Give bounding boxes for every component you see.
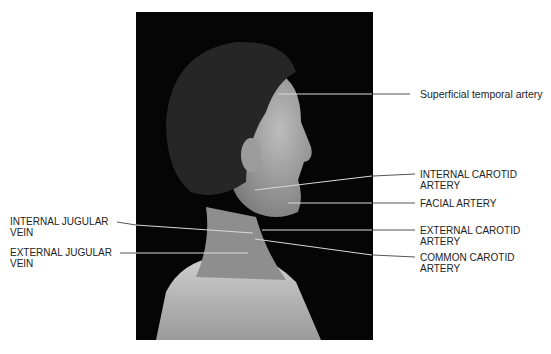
label-external-carotid-artery: EXTERNAL CAROTID ARTERY: [420, 225, 520, 247]
label-superficial-temporal-artery: Superficial temporal artery: [420, 89, 543, 100]
label-facial-artery: FACIAL ARTERY: [420, 198, 497, 209]
person-silhouette: [136, 12, 373, 340]
label-common-carotid-artery: COMMON CAROTID ARTERY: [420, 252, 514, 274]
label-internal-jugular-vein: INTERNAL JUGULAR VEIN: [10, 216, 109, 238]
label-internal-carotid-artery: INTERNAL CAROTID ARTERY: [420, 169, 517, 191]
label-external-jugular-vein: EXTERNAL JUGULAR VEIN: [10, 247, 112, 269]
profile-photo: [136, 12, 373, 340]
